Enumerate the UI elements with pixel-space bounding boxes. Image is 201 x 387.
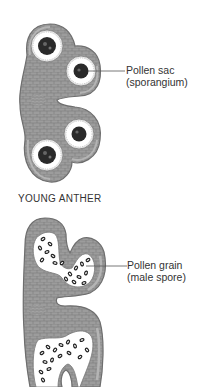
young-anther-caption: YOUNG ANTHER <box>18 193 102 204</box>
young-anther <box>20 24 125 182</box>
pollen-grain-label-line2: (male spore) <box>127 271 186 283</box>
pollen-sac-lower-left <box>31 139 63 171</box>
pollen-grain-label: Pollen grain (male spore) <box>127 259 186 283</box>
vascular-bundle <box>31 94 45 106</box>
pollen-sac-label: Pollen sac (sporangium) <box>126 64 188 88</box>
pollen-sac-upper-left <box>31 30 63 62</box>
pollen-grain-label-line1: Pollen grain <box>127 259 186 271</box>
pollen-sac-label-line1: Pollen sac <box>126 64 188 76</box>
vascular-bundle <box>29 305 45 315</box>
pollen-sac-label-line2: (sporangium) <box>126 76 188 88</box>
pollen-sac-lower-right <box>64 119 94 149</box>
mature-anther <box>23 218 127 387</box>
